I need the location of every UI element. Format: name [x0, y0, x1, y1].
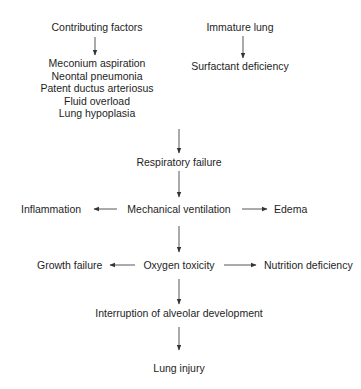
- node-lung-injury: Lung injury: [153, 362, 204, 375]
- list-item: Lung hypoplasia: [40, 107, 153, 120]
- node-immature-lung: Immature lung: [206, 21, 273, 34]
- node-surfactant-deficiency: Surfactant deficiency: [191, 60, 288, 73]
- contributing-factors-list: Meconium aspiration Neontal pneumonia Pa…: [40, 57, 153, 120]
- node-oxygen-toxicity: Oxygen toxicity: [143, 259, 214, 272]
- node-interruption-alveolar-development: Interruption of alveolar development: [95, 307, 263, 320]
- node-mechanical-ventilation: Mechanical ventilation: [127, 203, 230, 216]
- node-inflammation: Inflammation: [21, 203, 81, 216]
- node-contributing-factors: Contributing factors: [51, 21, 142, 34]
- list-item: Neontal pneumonia: [40, 70, 153, 83]
- node-edema: Edema: [274, 203, 307, 216]
- node-nutrition-deficiency: Nutrition deficiency: [264, 259, 353, 272]
- list-item: Meconium aspiration: [40, 57, 153, 70]
- node-growth-failure: Growth failure: [37, 259, 102, 272]
- list-item: Patent ductus arteriosus: [40, 82, 153, 95]
- node-respiratory-failure: Respiratory failure: [136, 156, 221, 169]
- list-item: Fluid overload: [40, 95, 153, 108]
